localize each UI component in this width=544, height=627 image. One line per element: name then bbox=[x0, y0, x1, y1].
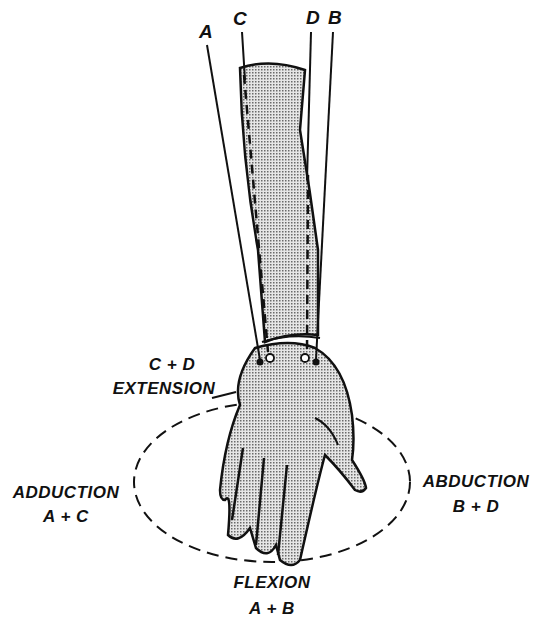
wire-label-a: A bbox=[199, 22, 213, 41]
wire-label-c: C bbox=[233, 9, 247, 28]
wire-label-b: B bbox=[328, 8, 342, 27]
attach-point-a bbox=[257, 359, 264, 366]
hand-forearm-diagram bbox=[0, 0, 544, 627]
flexion-label: FLEXION bbox=[233, 574, 310, 591]
extension-label: EXTENSION bbox=[113, 380, 216, 397]
abduction-label: ABDUCTION bbox=[423, 473, 530, 490]
line-d bbox=[307, 32, 311, 180]
adduction-combo: A + C bbox=[43, 508, 89, 525]
adduction-label: ADDUCTION bbox=[13, 484, 120, 501]
attach-point-d bbox=[301, 354, 309, 362]
abduction-combo: B + D bbox=[453, 498, 499, 515]
flexion-combo: A + B bbox=[249, 600, 295, 617]
attach-point-b bbox=[313, 359, 320, 366]
line-b bbox=[316, 32, 333, 360]
wire-label-d: D bbox=[306, 8, 320, 27]
attach-point-c bbox=[266, 354, 274, 362]
extension-combo: C + D bbox=[149, 356, 195, 373]
